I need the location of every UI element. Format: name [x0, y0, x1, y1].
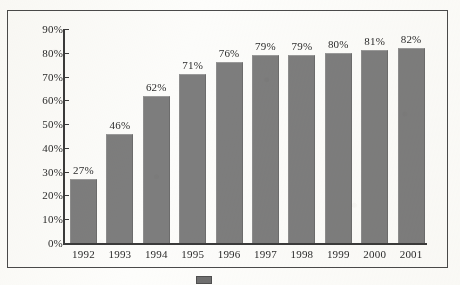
chart-legend [0, 276, 460, 285]
scanned-page: 90%80%70%60%50%40%30%20%10%0% 27%46%62%7… [0, 0, 460, 285]
x-axis-tick-label: 2001 [392, 249, 431, 260]
bar [106, 134, 133, 243]
bar-value-label: 71% [173, 60, 212, 71]
bar-chart-plot: 90%80%70%60%50%40%30%20%10%0% 27%46%62%7… [8, 11, 449, 269]
bar [216, 62, 243, 243]
bar [398, 48, 425, 243]
x-axis-tick-label: 1998 [282, 249, 321, 260]
bar-value-label: 62% [137, 82, 176, 93]
bar [325, 53, 352, 243]
bar-value-label: 81% [355, 36, 394, 47]
bar [288, 55, 315, 243]
bar-value-label: 76% [210, 48, 249, 59]
bar-value-label: 79% [246, 41, 285, 52]
bar [179, 74, 206, 243]
bar-value-label: 27% [64, 165, 103, 176]
x-axis-tick-label: 1996 [210, 249, 249, 260]
bar [143, 96, 170, 243]
x-axis-tick-label: 1997 [246, 249, 285, 260]
x-axis-tick-label: 1993 [100, 249, 139, 260]
bar-value-label: 79% [282, 41, 321, 52]
x-axis-tick-label: 1995 [173, 249, 212, 260]
bar [361, 50, 388, 243]
bar-value-label: 46% [100, 120, 139, 131]
x-axis-tick-label: 1994 [137, 249, 176, 260]
bar-series-group: 27%46%62%71%76%79%79%80%81%82% [8, 11, 449, 269]
x-axis-tick-label: 1999 [319, 249, 358, 260]
bar-value-label: 80% [319, 39, 358, 50]
x-axis-tick-label: 1992 [64, 249, 103, 260]
bar [252, 55, 279, 243]
x-axis-tick-label: 2000 [355, 249, 394, 260]
legend-swatch-icon [196, 276, 212, 284]
bar [70, 179, 97, 243]
bar-value-label: 82% [392, 34, 431, 45]
chart-frame: 90%80%70%60%50%40%30%20%10%0% 27%46%62%7… [7, 10, 448, 268]
